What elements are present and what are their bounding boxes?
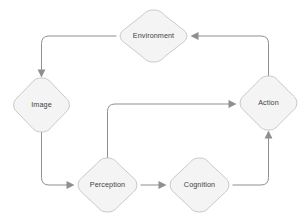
- arrowhead-up-icon: [265, 131, 273, 139]
- arrowhead-left-icon: [191, 32, 199, 40]
- diagram-canvas: Environment Image Action Perception Cogn…: [0, 0, 305, 223]
- node-layer: Environment Image Action Perception Cogn…: [14, 10, 297, 212]
- arrowhead-right-icon: [229, 100, 237, 108]
- node-perception[interactable]: Perception: [78, 158, 137, 212]
- edge-action-to-environment: [191, 32, 269, 76]
- edge-cognition-to-action: [233, 131, 273, 186]
- node-action-label: Action: [258, 98, 279, 107]
- arrowhead-right-icon: [159, 181, 167, 189]
- edge-perception-to-action-path: [108, 104, 230, 158]
- arrowhead-right-icon: [67, 181, 75, 189]
- node-perception-label: Perception: [90, 180, 125, 189]
- edge-image-to-perception: [42, 132, 75, 189]
- edge-environment-to-image-path: [42, 36, 117, 70]
- node-cognition[interactable]: Cognition: [170, 158, 229, 212]
- node-image-label: Image: [31, 100, 51, 109]
- node-image[interactable]: Image: [14, 78, 70, 132]
- edge-image-to-perception-path: [42, 132, 68, 185]
- edge-cognition-to-action-path: [233, 138, 269, 185]
- edge-perception-to-action: [108, 100, 237, 158]
- edge-perception-to-cognition: [141, 181, 167, 189]
- flow-diagram: Environment Image Action Perception Cogn…: [0, 0, 305, 223]
- edge-environment-to-image: [38, 36, 117, 78]
- node-action[interactable]: Action: [240, 76, 297, 130]
- node-cognition-label: Cognition: [184, 180, 215, 189]
- node-environment-label: Environment: [133, 31, 174, 40]
- node-environment[interactable]: Environment: [120, 10, 187, 62]
- arrowhead-down-icon: [38, 70, 46, 78]
- edge-action-to-environment-path: [198, 36, 269, 76]
